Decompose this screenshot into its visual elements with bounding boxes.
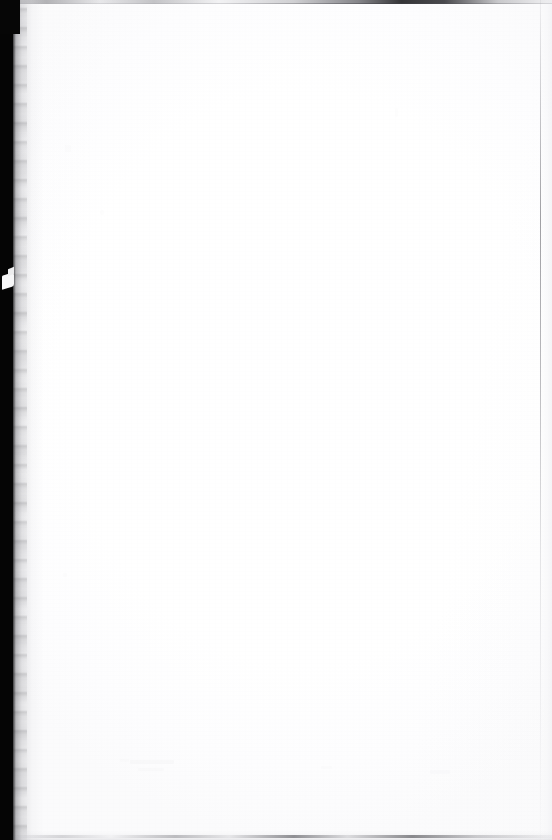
gutter-top-corner-block bbox=[0, 0, 20, 34]
scanner-gutter-black bbox=[0, 0, 13, 840]
scanned-page bbox=[0, 0, 552, 840]
paper-surface bbox=[0, 0, 552, 840]
